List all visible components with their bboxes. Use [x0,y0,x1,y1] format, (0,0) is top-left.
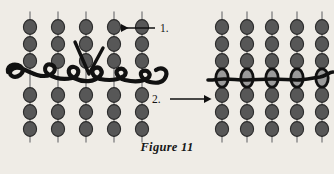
figure-caption: Figure 11 [0,140,334,155]
step-1-label: 1. [160,22,169,34]
figure-11-container: 1. 2. Figure 11 [0,0,334,174]
right-panel [208,12,333,142]
left-panel [8,12,167,142]
step-2-label: 2. [152,93,161,105]
